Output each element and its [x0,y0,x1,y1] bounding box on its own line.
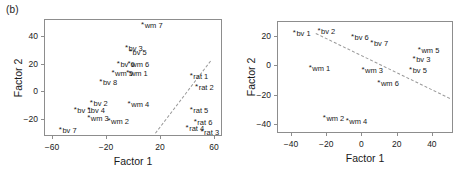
y-tick-mark [41,91,44,92]
data-point-label: wm 2 [326,114,344,123]
data-point-label: bv 5 [413,65,427,74]
x-tick-mark [432,133,433,136]
data-point: *wm 3 [87,114,109,122]
data-point: *bv 8 [99,78,117,86]
data-point-label: wm 2 [111,116,129,125]
data-point: *rat 2 [195,83,214,91]
data-point: *wm 6 [128,60,150,68]
data-point: *wm 5 [418,46,440,54]
y-tick-label: 20 [247,31,271,41]
data-point-label: wm 3 [91,113,109,122]
data-point: *wm 2 [323,114,345,122]
data-point-label: bv 7 [62,126,76,135]
data-point: *bv 3 [413,55,431,63]
x-tick-label: −20 [319,139,333,149]
x-tick-label: −60 [45,142,59,152]
data-point: *bv 1 [293,29,311,37]
y-tick-mark [274,65,277,66]
data-point: *wm 4 [128,100,150,108]
data-point: *bv 7 [370,39,388,47]
data-point-label: wm 1 [312,64,330,73]
x-tick-label: 20 [392,139,401,149]
x-tick-mark [160,136,161,139]
data-point-label: bv 7 [374,39,388,48]
x-tick-label: 20 [155,142,164,152]
x-tick-mark [397,133,398,136]
data-point: *bv 2 [317,27,335,35]
x-tick-mark [326,133,327,136]
data-point-label: bv 2 [321,27,335,36]
data-point: *bv 6 [351,33,369,41]
data-point: *rat 5 [190,106,209,114]
data-point: *wm 1 [309,64,331,72]
data-point-label: wm 7 [145,20,163,29]
x-tick-label: 60 [209,142,218,152]
data-point: *wm 7 [141,21,163,29]
x-tick-label: 40 [427,139,436,149]
y-tick-mark [274,36,277,37]
data-point: *wm 2 [107,117,129,125]
y-tick-mark [41,119,44,120]
data-point: *bv 5 [409,66,427,74]
y-tick-mark [41,64,44,65]
figure-root: (b) −60−202060−2002040Factor 1Factor 2*w… [0,0,466,178]
data-point-label: wm 4 [349,117,367,126]
y-tick-mark [274,124,277,125]
x-tick-label: 0 [359,139,364,149]
y-tick-label: −40 [247,119,271,129]
data-point-label: wm 1 [130,69,148,78]
data-point-label: wm 6 [381,78,399,87]
x-tick-mark [106,136,107,139]
y-axis-title: Factor 2 [245,47,257,107]
data-point-label: rat 2 [199,83,214,92]
data-point: *wm 1 [126,69,148,77]
data-point-label: bv 3 [416,55,430,64]
y-axis-title: Factor 2 [12,48,24,108]
data-point-label: bv 6 [355,33,369,42]
panel-label: (b) [6,4,19,15]
y-tick-label: −20 [14,114,38,124]
data-point: *bv 7 [59,126,77,134]
x-tick-mark [52,136,53,139]
x-tick-label: −20 [99,142,113,152]
x-axis-title: Factor 1 [346,152,385,164]
data-point-label: rat 5 [193,105,208,114]
data-point-label: wm 6 [131,59,149,68]
data-point-label: bv 1 [296,28,310,37]
scatter-panel-left: (b) −60−202060−2002040Factor 1Factor 2*w… [0,0,233,178]
y-tick-mark [274,95,277,96]
data-point-label: wm 5 [421,46,439,55]
x-tick-mark [291,133,292,136]
data-point-label: bv 5 [133,48,147,57]
x-tick-mark [361,133,362,136]
data-point-label: rat 1 [193,72,208,81]
data-point: *rat 1 [190,72,209,80]
data-point: *wm 6 [377,79,399,87]
data-point: *bv 5 [129,48,147,56]
data-point-label: wm 4 [131,99,149,108]
y-tick-label: 40 [14,31,38,41]
x-tick-label: −40 [284,139,298,149]
scatter-panel-right: −40−2002040−40−20020Factor 1Factor 2*bv … [233,0,466,178]
data-point: *wm 3 [361,66,383,74]
data-point-label: wm 3 [365,65,383,74]
data-point-label: rat 3 [204,127,219,136]
x-tick-mark [214,136,215,139]
y-tick-mark [41,36,44,37]
data-point: *rat 3 [200,128,219,136]
x-axis-title: Factor 1 [114,155,153,167]
data-point-label: bv 8 [103,77,117,86]
data-point: *wm 4 [346,117,368,125]
